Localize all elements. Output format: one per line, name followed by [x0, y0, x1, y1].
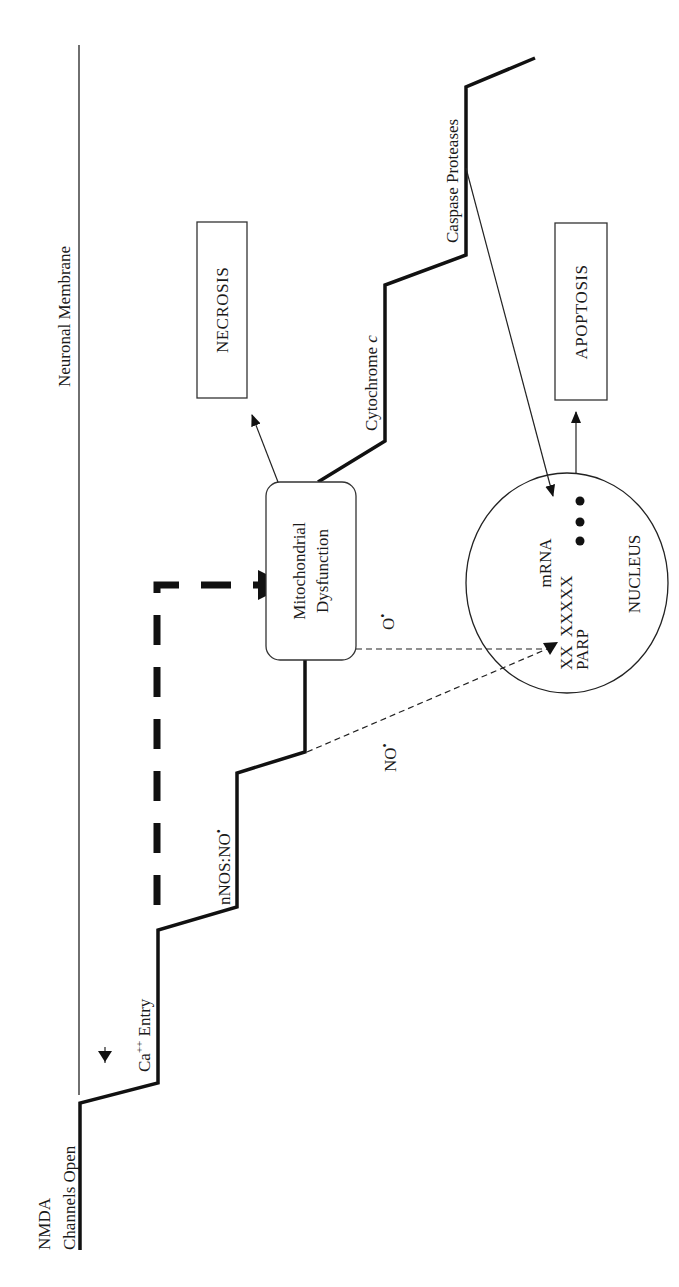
apoptosis-box: APOPTOSIS — [555, 223, 607, 400]
nucleus: mRNA XX XXXXX PARP NUCLEUS — [466, 473, 668, 693]
svg-text:Ca++ Entry: Ca++ Entry — [133, 998, 154, 1072]
svg-text:APOPTOSIS: APOPTOSIS — [572, 265, 591, 360]
dna-dot — [576, 537, 585, 546]
calcium-to-mitochondria-dashed-path — [157, 585, 262, 905]
ca-entry-label: Ca++ Entry — [133, 998, 154, 1072]
svg-text:Channels Open: Channels Open — [60, 1145, 79, 1250]
svg-text:NMDA: NMDA — [35, 1197, 54, 1250]
caspase-proteases-label: Caspase Proteases — [443, 119, 462, 243]
svg-text:PARP: PARP — [573, 629, 592, 670]
svg-text:nNOS:NO•: nNOS:NO• — [212, 829, 234, 905]
mito-to-necrosis-arrow — [252, 415, 278, 482]
svg-text:mRNA: mRNA — [536, 538, 555, 588]
nitric-oxide-label: NO• — [378, 743, 400, 772]
superoxide-label: O• — [376, 614, 398, 630]
caspase-to-nucleus-arrow — [466, 168, 553, 496]
cascade-path-upper — [318, 58, 535, 482]
nmda-label: NMDA Channels Open — [35, 1145, 79, 1250]
necrosis-box: NECROSIS — [197, 222, 247, 398]
mitochondrial-dysfunction-box: Mitochondrial Dysfunction — [266, 482, 356, 660]
nitric-oxide-dashed-arrow — [307, 649, 547, 752]
ca-entry-arrowhead-icon — [98, 1051, 112, 1062]
svg-text:Mitochondrial: Mitochondrial — [290, 522, 309, 620]
dna-dot — [576, 497, 585, 506]
nnos-label: nNOS:NO• — [212, 829, 234, 905]
dna-dot — [576, 518, 585, 527]
svg-text:NECROSIS: NECROSIS — [213, 267, 232, 353]
svg-text:NUCLEUS: NUCLEUS — [625, 535, 644, 613]
svg-text:Caspase Proteases: Caspase Proteases — [443, 119, 462, 243]
svg-text:Cytochrome c: Cytochrome c — [362, 335, 381, 431]
neuronal-membrane-label: Neuronal Membrane — [55, 246, 74, 387]
radical-arrowhead-icon — [543, 642, 558, 655]
excitotoxicity-pathway-diagram: Neuronal Membrane NMDA Channels Open Ca+… — [0, 0, 679, 1287]
svg-text:O•: O• — [376, 614, 398, 630]
svg-text:NO•: NO• — [378, 743, 400, 772]
cytochrome-c-label: Cytochrome c — [362, 335, 381, 431]
svg-text:Dysfunction: Dysfunction — [313, 528, 332, 613]
cascade-path-lower — [80, 660, 305, 1250]
